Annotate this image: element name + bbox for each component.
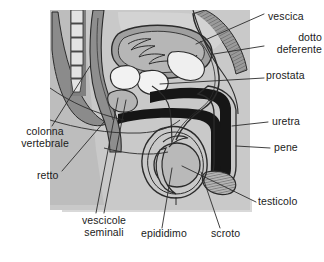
label-testicolo: testicolo: [258, 196, 297, 208]
label-retto: retto: [37, 170, 59, 182]
label-prostata: prostata: [266, 70, 305, 82]
label-epididimo: epididimo: [141, 228, 187, 240]
seminal-vesicle-lower: [108, 90, 138, 112]
seminal-vesicle-upper: [110, 66, 139, 90]
label-uretra: uretra: [272, 116, 300, 128]
label-vescicole-seminali: vescicole seminali: [66, 215, 142, 238]
label-dotto-deferente: dotto deferente: [248, 32, 322, 55]
label-vescica: vescica: [268, 11, 304, 23]
label-scroto: scroto: [211, 228, 240, 240]
label-colonna-vertebrale: colonna vertebrale: [6, 126, 84, 149]
label-pene: pene: [274, 142, 298, 154]
